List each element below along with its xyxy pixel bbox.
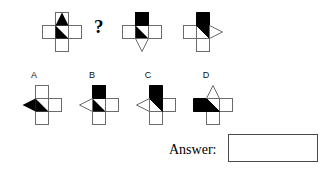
answer-label: Answer: [169,143,216,157]
answer-input-box[interactable] [228,134,318,162]
sequence-figure-1 [42,10,86,50]
puzzle-canvas: ? [0,0,329,171]
option-letter-a: A [27,71,41,80]
option-figure-b[interactable] [79,83,125,125]
option-figure-d[interactable] [193,83,239,125]
option-figure-a[interactable] [22,83,68,125]
option-letter-b: B [85,71,99,80]
option-figure-c[interactable] [136,83,182,125]
option-letter-d: D [199,71,213,80]
option-letter-c: C [141,71,155,80]
missing-figure-question-mark: ? [94,17,104,36]
sequence-figure-4 [183,10,229,52]
sequence-figure-3 [122,10,168,52]
